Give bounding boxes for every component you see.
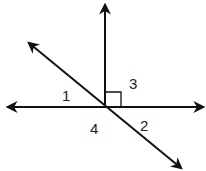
angle-label-2: 2: [140, 117, 148, 134]
angle-label-3: 3: [129, 75, 137, 92]
angle-diagram: 1 3 4 2: [0, 0, 206, 171]
angle-label-4: 4: [90, 120, 98, 137]
angle-label-1: 1: [62, 87, 70, 104]
right-angle-marker: [106, 92, 121, 106]
